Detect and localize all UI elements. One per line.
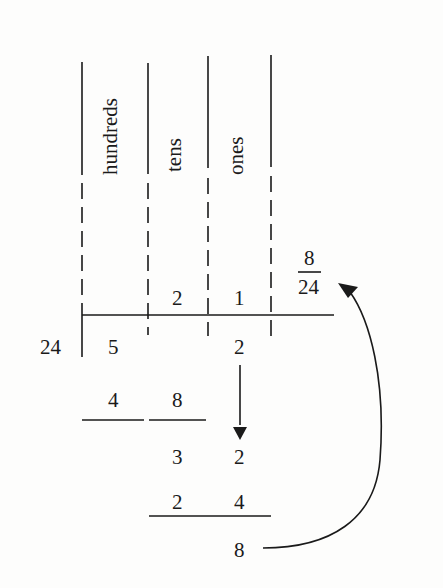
column-label-ones: ones [226, 137, 247, 176]
step-subtract-2-digit-1: 2 [172, 492, 183, 513]
step-subtract-1-digit-1: 4 [108, 390, 119, 411]
step-partial-1-digit-1: 3 [172, 447, 183, 468]
diagram-lines [0, 0, 443, 588]
remainder-arrow-head [338, 283, 358, 298]
bring-down-arrow-head [233, 427, 247, 440]
step-partial-1-digit-2: 2 [234, 447, 245, 468]
column-label-hundreds: hundreds [100, 98, 121, 175]
column-label-tens: tens [164, 138, 185, 172]
dividend-digit-hundreds: 5 [108, 337, 119, 358]
long-division-diagram: hundreds tens ones 2 1 8 24 24 5 2 4 8 3… [0, 0, 443, 588]
divisor: 24 [40, 337, 61, 358]
quotient-digit-tens: 2 [172, 288, 183, 309]
remainder-arrow [263, 292, 381, 548]
dividend-digit-ones: 2 [234, 337, 245, 358]
step-subtract-1-digit-2: 8 [172, 390, 183, 411]
fraction-numerator: 8 [304, 248, 315, 269]
quotient-digit-ones: 1 [234, 288, 245, 309]
fraction-denominator: 24 [298, 277, 319, 298]
step-subtract-2-digit-2: 4 [234, 492, 245, 513]
remainder: 8 [234, 540, 245, 561]
